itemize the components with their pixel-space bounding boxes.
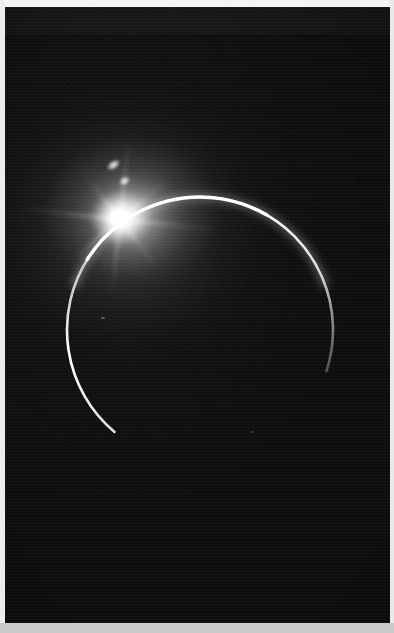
corona-inner-lobe — [45, 137, 335, 397]
dust-speck-1 — [101, 317, 105, 319]
night-sky-plate — [5, 7, 390, 623]
paper-margin-top — [0, 0, 394, 7]
paper-margin-bottom — [0, 623, 394, 633]
film-grain-overlay — [5, 7, 390, 623]
sun-core — [110, 209, 130, 227]
dust-speck-2 — [251, 431, 254, 433]
sky-upper-band — [5, 7, 390, 33]
crescent-limb-svg — [5, 7, 390, 623]
exposure-seam-line — [5, 33, 390, 34]
vignette-overlay — [5, 7, 390, 623]
corona-glow — [5, 65, 390, 495]
crescent-limb — [5, 7, 390, 623]
photo-frame — [0, 0, 394, 633]
lens-flare-spot-2 — [116, 173, 132, 188]
lens-flare-spot-1 — [103, 156, 123, 174]
paper-margin-right — [390, 0, 394, 633]
